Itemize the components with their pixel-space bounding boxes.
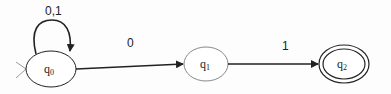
state-q1: q1: [184, 47, 228, 81]
transition-label-q0-q0: 0,1: [45, 4, 62, 18]
state-q2-accepting: q2: [319, 45, 369, 83]
automaton-diagram: 0,1 q0 0 q1 1 q2: [0, 0, 391, 94]
initial-state-marker: [16, 62, 26, 78]
transition-label-q1-q2: 1: [282, 39, 289, 53]
transition-q0-q1: [76, 64, 183, 69]
self-loop-q0: [34, 20, 70, 54]
transition-label-q0-q1: 0: [127, 36, 134, 50]
state-q0: q0: [26, 51, 76, 87]
